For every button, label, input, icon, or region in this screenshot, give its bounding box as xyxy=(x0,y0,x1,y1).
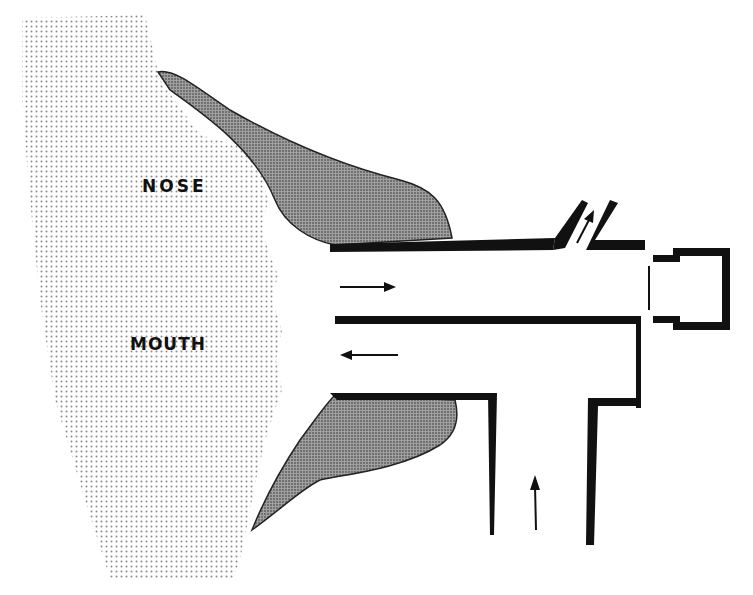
valve-membrane xyxy=(648,266,650,310)
breathing-apparatus-diagram: NOSE MOUTH xyxy=(0,0,753,595)
mouth-label: MOUTH xyxy=(130,334,206,354)
mask-lower-flange xyxy=(252,395,457,530)
intake-arrow xyxy=(530,475,540,530)
exhale-arrow xyxy=(340,350,398,360)
nose-label: NOSE xyxy=(142,176,207,196)
chamber-right-wall xyxy=(636,316,641,408)
center-divider-wall xyxy=(335,316,640,324)
valve-cap xyxy=(648,248,730,330)
face-profile xyxy=(22,15,282,580)
inhale-arrow xyxy=(340,282,396,292)
